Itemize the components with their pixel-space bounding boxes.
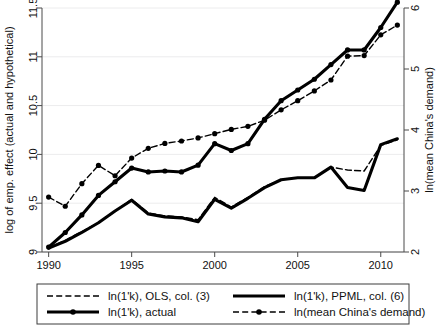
y-axis-left-tick-label: 10 <box>27 148 39 160</box>
legend-item-label: ln(mean China's demand) <box>294 306 425 318</box>
y-axis-right-tick-label: 5 <box>409 66 421 72</box>
series-actual-marker <box>112 179 117 184</box>
series-china-demand-marker <box>195 135 200 140</box>
series-china-demand-marker <box>245 124 250 129</box>
series-actual-marker <box>79 212 84 217</box>
series-actual-marker <box>229 148 234 153</box>
series-china-demand-marker <box>262 118 267 123</box>
series-china-demand-marker <box>179 138 184 143</box>
series-actual-marker <box>345 47 350 52</box>
series-actual-marker <box>279 98 284 103</box>
series-china-demand-marker <box>362 53 367 58</box>
series-china-demand-marker <box>378 32 383 37</box>
series-china-demand-marker <box>96 163 101 168</box>
series-china-demand-marker <box>146 146 151 151</box>
series-actual-marker <box>162 168 167 173</box>
y-axis-right-tick-label: 2 <box>409 249 421 255</box>
chart-background <box>0 0 443 333</box>
series-actual-marker <box>179 169 184 174</box>
series-actual-marker <box>362 47 367 52</box>
series-china-demand-marker <box>345 54 350 59</box>
series-china-demand-marker <box>295 98 300 103</box>
series-china-demand-marker <box>112 173 117 178</box>
y-axis-left-tick-label: 10.5 <box>27 95 39 116</box>
y-axis-left-tick-label: 9.5 <box>27 196 39 211</box>
legend-swatch-marker <box>70 309 76 315</box>
series-china-demand-marker <box>79 181 84 186</box>
legend-item-label: ln(1'k), PPML, col. (6) <box>294 290 404 302</box>
x-axis-tick-label: 2000 <box>202 259 226 271</box>
y-axis-left-title: log of emp. effect (actual and hypotheti… <box>3 26 15 233</box>
legend-swatch-marker <box>256 309 262 315</box>
y-axis-right-tick-label: 4 <box>409 127 421 133</box>
series-actual-marker <box>295 87 300 92</box>
series-actual-marker <box>46 245 51 250</box>
x-axis-tick-label: 1995 <box>119 259 143 271</box>
y-axis-left-tick-label: 11.5 <box>27 0 39 18</box>
series-china-demand-marker <box>395 22 400 27</box>
x-axis-tick-label: 2010 <box>369 259 393 271</box>
y-axis-right-tick-label: 3 <box>409 188 421 194</box>
legend-item-label: ln(1'k), actual <box>108 306 176 318</box>
series-china-demand-marker <box>63 204 68 209</box>
chart-legend: ln(1'k), OLS, col. (3)ln(1'k), PPML, col… <box>37 284 425 324</box>
line-chart: 99.51010.51111.5234561990199520002005201… <box>0 0 443 333</box>
series-china-demand-marker <box>312 88 317 93</box>
legend-item-label: ln(1'k), OLS, col. (3) <box>108 290 210 302</box>
series-china-demand-marker <box>229 127 234 132</box>
y-axis-right-tick-label: 6 <box>409 5 421 11</box>
series-china-demand-marker <box>46 195 51 200</box>
series-china-demand-marker <box>279 107 284 112</box>
series-actual-marker <box>245 141 250 146</box>
y-axis-left-tick-label: 11 <box>27 51 39 62</box>
series-actual-marker <box>212 141 217 146</box>
series-actual-marker <box>146 169 151 174</box>
series-actual-marker <box>195 163 200 168</box>
x-axis-tick-label: 1990 <box>36 259 60 271</box>
x-axis-tick-label: 2005 <box>285 259 309 271</box>
y-axis-left-tick-label: 9 <box>27 249 39 255</box>
series-china-demand-marker <box>328 77 333 82</box>
series-actual-marker <box>312 77 317 82</box>
series-actual-marker <box>63 230 68 235</box>
series-actual-marker <box>328 62 333 67</box>
series-actual-marker <box>129 165 134 170</box>
series-china-demand-marker <box>162 141 167 146</box>
chart-figure: 99.51010.51111.5234561990199520002005201… <box>0 0 443 333</box>
series-actual-marker <box>378 25 383 30</box>
y-axis-right-title: ln(mean China's demand) <box>423 67 435 193</box>
series-china-demand-marker <box>129 155 134 160</box>
series-actual-marker <box>96 193 101 198</box>
series-china-demand-marker <box>212 131 217 136</box>
